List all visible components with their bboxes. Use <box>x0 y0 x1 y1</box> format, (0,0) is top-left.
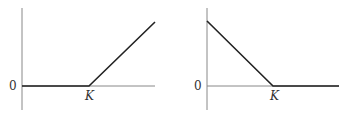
call-payoff-chart: 0 K <box>9 8 155 110</box>
strike-label: K <box>269 89 280 103</box>
payoff-diagrams: 0 K 0 K <box>0 0 346 119</box>
zero-label: 0 <box>194 79 202 93</box>
zero-label: 0 <box>9 79 17 93</box>
strike-label: K <box>84 89 95 103</box>
payoff-line <box>22 22 155 86</box>
put-payoff-chart: 0 K <box>194 8 339 110</box>
payoff-line <box>207 21 339 86</box>
